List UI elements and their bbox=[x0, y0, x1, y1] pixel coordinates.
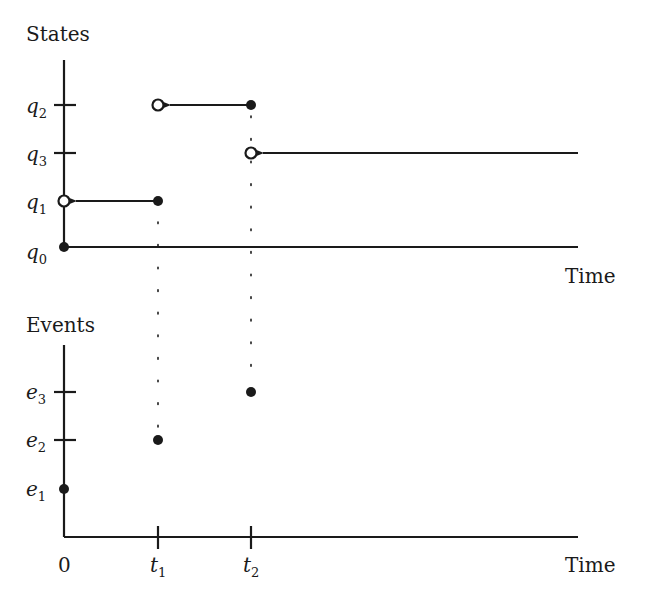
closed-marker-q2-t2 bbox=[246, 100, 256, 110]
tick-label-t1: t1 bbox=[150, 553, 166, 577]
open-marker-q3-t2 bbox=[246, 148, 257, 159]
tick-label-q2: q2 bbox=[26, 94, 47, 118]
tick-label-e2: e2 bbox=[26, 428, 46, 452]
tick-label-q3: q3 bbox=[26, 142, 47, 166]
open-marker-q1-0 bbox=[59, 196, 70, 207]
states-time-label: Time bbox=[565, 264, 616, 288]
event-point-e1 bbox=[59, 484, 69, 494]
state-segments bbox=[76, 105, 578, 201]
event-point-e3 bbox=[246, 387, 256, 397]
tick-label-0: 0 bbox=[58, 553, 71, 577]
state-event-diagram bbox=[0, 0, 650, 605]
dotted-guides bbox=[158, 116, 251, 430]
state-markers bbox=[59, 100, 257, 253]
events-time-label: Time bbox=[565, 553, 616, 577]
tick-label-e3: e3 bbox=[26, 380, 46, 404]
closed-marker-q1-t1 bbox=[153, 196, 163, 206]
tick-label-q1: q1 bbox=[26, 190, 47, 214]
open-marker-q2-t1 bbox=[153, 100, 164, 111]
event-point-e2 bbox=[153, 435, 163, 445]
closed-marker-q0-0 bbox=[59, 242, 69, 252]
events-title: Events bbox=[26, 313, 95, 337]
tick-label-q0: q0 bbox=[26, 240, 47, 264]
events-axes bbox=[54, 345, 578, 549]
tick-label-t2: t2 bbox=[243, 553, 259, 577]
tick-label-e1: e1 bbox=[26, 477, 46, 501]
states-title: States bbox=[26, 22, 90, 46]
